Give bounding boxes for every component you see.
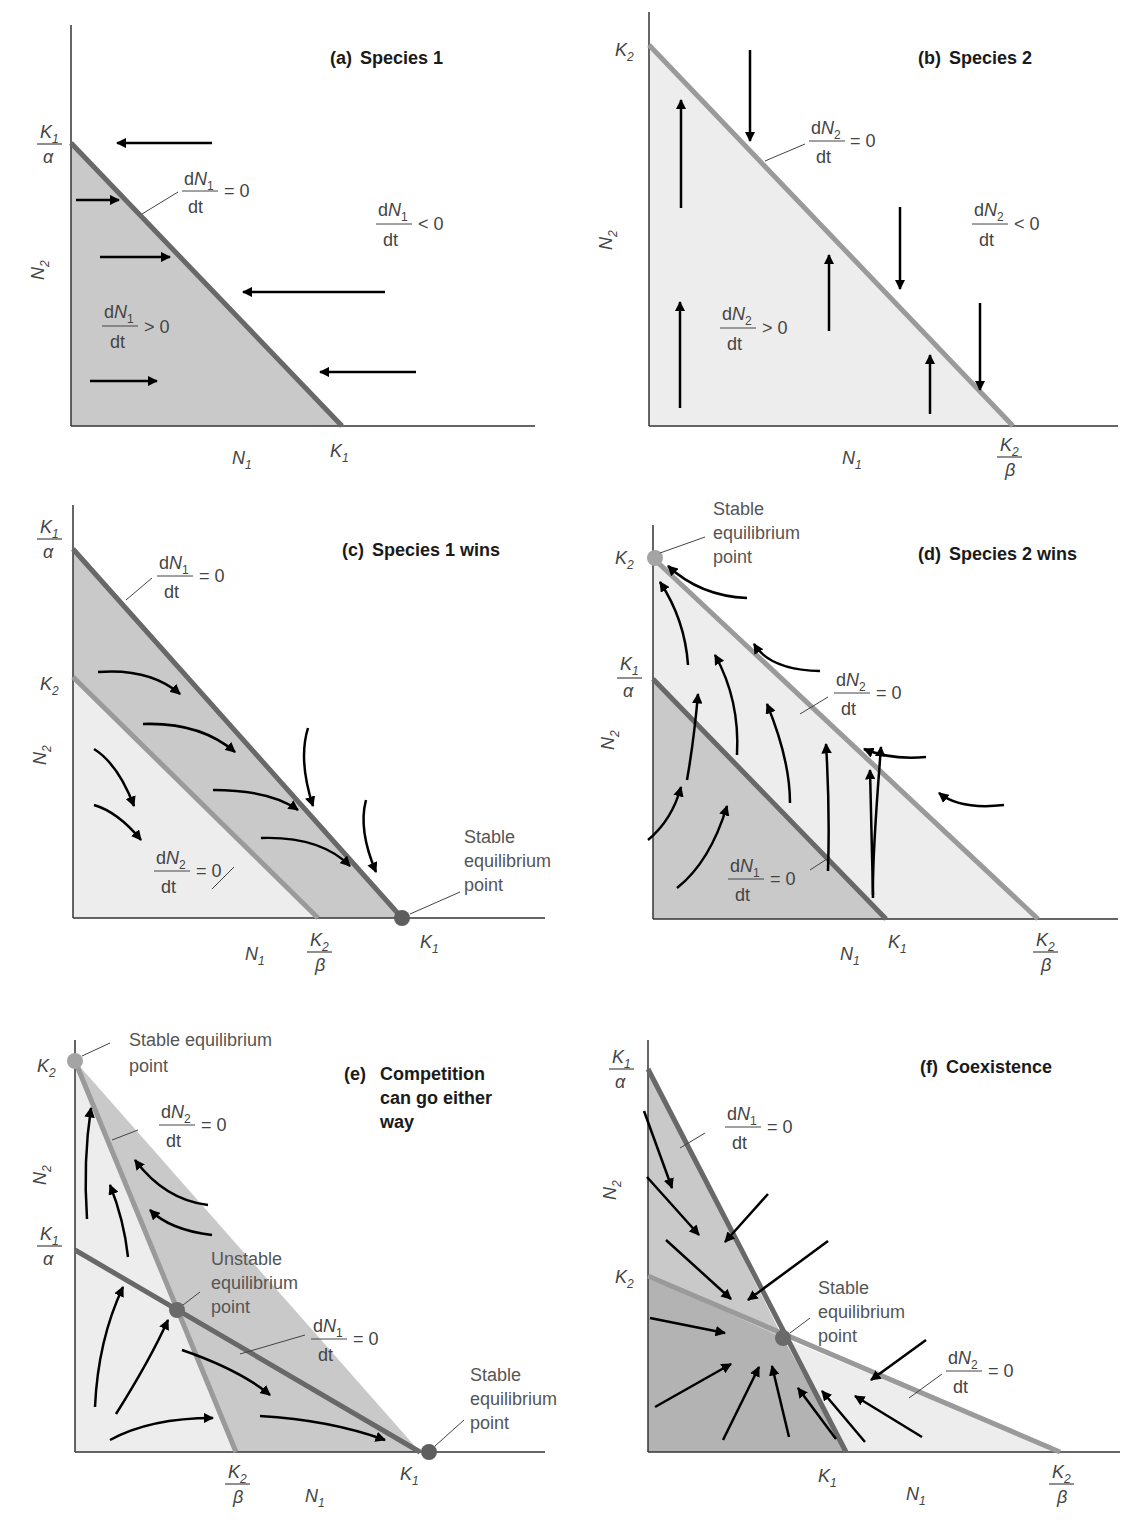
svg-text:point: point: [470, 1413, 509, 1433]
equilibrium-label: Stable equilibrium point: [790, 1278, 905, 1346]
svg-text:β: β: [232, 1487, 243, 1507]
svg-text:dt: dt: [816, 147, 831, 167]
x-axis-label: N1: [842, 448, 862, 472]
svg-text:α: α: [623, 681, 634, 701]
panel-title: (d)Species 2 wins: [918, 544, 1077, 564]
svg-text:β: β: [1040, 955, 1051, 975]
svg-text:dt: dt: [732, 1133, 747, 1153]
svg-text:Stable: Stable: [464, 827, 515, 847]
equilibrium-label: Stable equilibrium point: [410, 827, 551, 914]
panel-title: (f)Coexistence: [920, 1057, 1052, 1077]
equilibrium-label-k1: Stable equilibrium point: [435, 1365, 557, 1446]
svg-text:< 0: < 0: [418, 214, 444, 234]
svg-text:α: α: [615, 1072, 626, 1092]
isocline-label-species2: dN2 dt = 0: [909, 1348, 1014, 1398]
stable-equilibrium-point: [775, 1330, 791, 1346]
unstable-equilibrium-point: [169, 1302, 185, 1318]
x-intercept-label: K1: [330, 441, 349, 465]
equilibrium-label-k2: Stable equilibrium point: [82, 1030, 272, 1076]
x-intercept-label-k2-beta: K2 β: [225, 1462, 250, 1507]
y-intercept-label-k2: K2: [615, 1267, 634, 1291]
svg-text:= 0: = 0: [767, 1117, 793, 1137]
panel-title: (a)Species 1: [330, 48, 443, 68]
panel-b: (b)Species 2 K2 K2 β N1 N2 dN2 dt = 0 dN…: [596, 12, 1118, 480]
region-label-negative: dN1 dt < 0: [376, 200, 444, 250]
svg-text:dt: dt: [841, 699, 856, 719]
region-label-negative: dN2 dt < 0: [972, 200, 1040, 250]
svg-text:dt: dt: [161, 877, 176, 897]
svg-text:> 0: > 0: [762, 318, 788, 338]
panel-c: (c)Species 1 wins K1 α K2 K2 β K1 N1 N2 …: [30, 505, 551, 975]
y-intercept-label-k1-alpha: K1 α: [617, 654, 642, 701]
svg-text:β: β: [1056, 1487, 1067, 1507]
panel-title: (b)Species 2: [918, 48, 1032, 68]
stable-equilibrium-point: [394, 910, 410, 926]
svg-text:Stable: Stable: [470, 1365, 521, 1385]
y-axis-label: N2: [598, 730, 622, 750]
y-intercept-label-k2: K2: [37, 1056, 56, 1080]
svg-text:dt: dt: [735, 885, 750, 905]
svg-text:equilibrium: equilibrium: [464, 851, 551, 871]
panel-f: (f)Coexistence K1 α K2 K1 K2 β N1 N2 dN1…: [600, 1040, 1120, 1508]
svg-text:K2: K2: [1036, 930, 1055, 954]
stable-equilibrium-point-k1: [421, 1444, 437, 1460]
y-intercept-label-k2: K2: [40, 674, 59, 698]
panel-a: (a)Species 1 K1 α K1 N1 N2 dN1 dt = 0 dN…: [28, 25, 535, 472]
svg-text:K2: K2: [310, 930, 329, 954]
y-intercept-label-k2: K2: [615, 548, 634, 572]
svg-text:point: point: [464, 875, 503, 895]
svg-text:dt: dt: [164, 582, 179, 602]
svg-text:K1: K1: [40, 517, 59, 541]
y-axis-label: N2: [28, 260, 52, 280]
svg-text:Stable equilibrium: Stable equilibrium: [129, 1030, 272, 1050]
isocline-label-species1: dN1 dt = 0: [126, 553, 225, 602]
svg-text:β: β: [314, 955, 325, 975]
y-axis-label: N2: [30, 745, 54, 765]
svg-text:can go either: can go either: [380, 1088, 492, 1108]
svg-text:K1: K1: [612, 1047, 631, 1071]
x-intercept-label-k1: K1: [818, 1466, 837, 1490]
svg-text:dt: dt: [110, 332, 125, 352]
svg-text:dN2: dN2: [811, 118, 841, 142]
svg-text:K1: K1: [40, 122, 59, 146]
y-intercept-label: K1 α: [37, 122, 62, 167]
y-intercept-label-k1-alpha: K1 α: [609, 1047, 634, 1092]
svg-text:K2: K2: [1052, 1462, 1071, 1486]
x-intercept-label-k2-beta: K2 β: [1049, 1462, 1074, 1507]
svg-text:point: point: [818, 1326, 857, 1346]
svg-text:dt: dt: [318, 1345, 333, 1365]
svg-text:dN1: dN1: [378, 200, 408, 224]
svg-text:dN1: dN1: [184, 169, 214, 193]
svg-text:α: α: [43, 147, 54, 167]
equilibrium-label: Stable equilibrium point: [660, 499, 800, 567]
svg-text:< 0: < 0: [1014, 214, 1040, 234]
svg-text:K1: K1: [620, 654, 639, 678]
x-intercept-label-k1: K1: [420, 932, 439, 956]
svg-text:dt: dt: [727, 334, 742, 354]
isocline-label: dN2 dt = 0: [765, 118, 876, 167]
x-intercept-label-k2-beta: K2 β: [307, 930, 332, 975]
x-axis-label: N1: [245, 944, 265, 968]
svg-text:Stable: Stable: [713, 499, 764, 519]
svg-text:dt: dt: [979, 230, 994, 250]
svg-text:point: point: [129, 1056, 168, 1076]
stable-equilibrium-point-k2: [67, 1053, 83, 1069]
svg-text:= 0: = 0: [770, 869, 796, 889]
x-intercept-label: K2 β: [997, 435, 1022, 480]
svg-text:= 0: = 0: [988, 1361, 1014, 1381]
svg-text:> 0: > 0: [144, 317, 170, 337]
svg-text:point: point: [211, 1297, 250, 1317]
svg-text:equilibrium: equilibrium: [211, 1273, 298, 1293]
svg-text:α: α: [43, 1249, 54, 1269]
x-axis-label: N1: [232, 448, 252, 472]
svg-text:= 0: = 0: [353, 1329, 379, 1349]
svg-text:dN1: dN1: [159, 553, 189, 577]
y-intercept-label-k1-alpha: K1 α: [37, 517, 62, 562]
svg-text:dN1: dN1: [727, 1104, 757, 1128]
svg-text:dt: dt: [953, 1377, 968, 1397]
svg-text:dN2: dN2: [836, 670, 866, 694]
svg-text:Unstable: Unstable: [211, 1249, 282, 1269]
panel-title: (e) Competition can go either way: [344, 1064, 492, 1132]
y-intercept-label-k1-alpha: K1 α: [37, 1224, 62, 1269]
svg-text:α: α: [43, 542, 54, 562]
